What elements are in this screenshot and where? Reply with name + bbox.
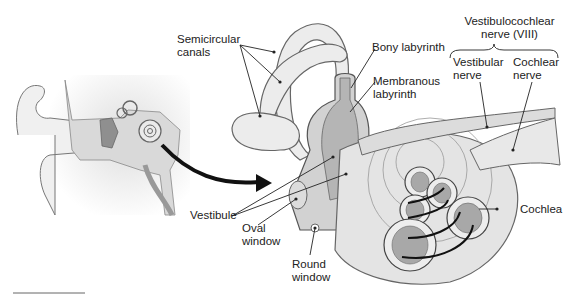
label-line: Cochlear (513, 56, 559, 69)
label-cochlear-nerve: Cochlear nerve (513, 56, 559, 82)
label-line: labyrinth (373, 88, 440, 101)
label-line: Oval (242, 222, 280, 235)
label-vestibule: Vestibule (190, 209, 237, 222)
label-line: Vestibulocochlear (462, 15, 557, 28)
label-bony-labyrinth: Bony labyrinth (372, 41, 445, 54)
label-membranous-labyrinth: Membranous labyrinth (373, 75, 440, 101)
label-line: nerve (VIII) (462, 28, 557, 41)
label-round-window: Round window (292, 258, 330, 284)
label-line: canals (177, 46, 240, 59)
label-vestibulocochlear-nerve: Vestibulocochlear nerve (VIII) (462, 15, 557, 41)
label-line: window (242, 235, 280, 248)
label-vestibular-nerve: Vestibular nerve (453, 56, 504, 82)
inner-ear-diagram: Semicircular canals Bony labyrinth Membr… (0, 0, 575, 295)
label-line: window (292, 271, 330, 284)
label-line: Membranous (373, 75, 440, 88)
label-line: nerve (513, 69, 559, 82)
label-line: Semicircular (177, 33, 240, 46)
label-cochlea: Cochlea (520, 203, 562, 216)
label-oval-window: Oval window (242, 222, 280, 248)
label-semicircular-canals: Semicircular canals (177, 33, 240, 59)
label-line: nerve (453, 69, 504, 82)
diagram-artwork (0, 0, 575, 295)
label-line: Vestibular (453, 56, 504, 69)
label-line: Round (292, 258, 330, 271)
